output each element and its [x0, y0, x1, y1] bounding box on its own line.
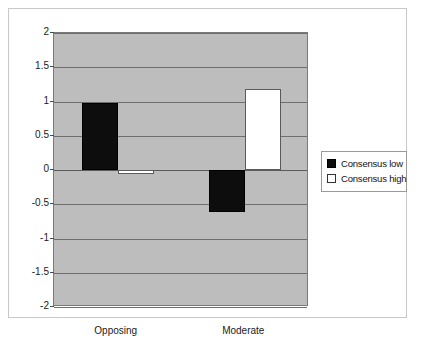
y-tick-label: 0.5 — [9, 130, 49, 140]
category-label-moderate: Moderate — [193, 325, 293, 336]
gridline — [54, 273, 307, 274]
y-tick-label: 1 — [9, 96, 49, 106]
legend-item-label: Consensus low — [341, 158, 403, 169]
y-tick-label: -1 — [9, 233, 49, 243]
legend-item-label: Consensus high — [341, 173, 406, 184]
y-tick-label: -2 — [9, 301, 49, 311]
y-tick-mark — [50, 32, 54, 33]
category-label-opposing: Opposing — [66, 325, 166, 336]
y-tick-mark — [50, 272, 54, 273]
y-tick-mark — [50, 306, 54, 307]
gridline — [54, 67, 307, 68]
plot-area — [53, 32, 308, 306]
bar-moderate-consensus-low — [209, 170, 245, 212]
y-tick-label: 1.5 — [9, 61, 49, 71]
chart-legend: Consensus low Consensus high — [321, 151, 407, 192]
legend-swatch-icon — [327, 159, 336, 168]
y-tick-mark — [50, 203, 54, 204]
y-tick-label: -0.5 — [9, 198, 49, 208]
gridline — [54, 204, 307, 205]
bar-moderate-consensus-high — [245, 89, 281, 170]
chart-figure: 21.510.50-0.5-1-1.5-2 Consensus low Cons… — [8, 8, 407, 318]
y-tick-mark — [50, 169, 54, 170]
legend-swatch-icon — [327, 174, 336, 183]
y-tick-mark — [50, 66, 54, 67]
bar-opposing-consensus-low — [82, 103, 118, 170]
y-tick-mark — [50, 238, 54, 239]
bar-opposing-consensus-high — [118, 170, 154, 174]
y-tick-label: 0 — [9, 164, 49, 174]
gridline — [54, 33, 307, 34]
y-tick-mark — [50, 101, 54, 102]
gridline — [54, 239, 307, 240]
y-tick-label: -1.5 — [9, 267, 49, 277]
gridline — [54, 170, 307, 171]
y-axis-tick-labels: 21.510.50-0.5-1-1.5-2 — [9, 32, 49, 306]
legend-item-consensus-high[interactable]: Consensus high — [327, 171, 401, 186]
legend-item-consensus-low[interactable]: Consensus low — [327, 156, 401, 171]
y-tick-label: 2 — [9, 27, 49, 37]
gridline — [54, 307, 307, 308]
y-tick-mark — [50, 135, 54, 136]
